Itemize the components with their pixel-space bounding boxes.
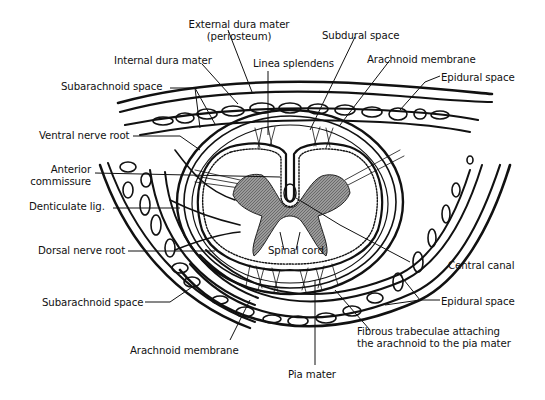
label-external-dura-mater: External dura mater (periosteum) — [178, 19, 300, 43]
external-dura-layer — [118, 82, 492, 135]
label-central-canal: Central canal — [448, 260, 514, 272]
label-epidural-space-top: Epidural space — [441, 72, 515, 84]
label-fibrous-trabeculae: Fibrous trabeculae attaching the arachno… — [357, 326, 511, 350]
label-ventral-nerve-root: Ventral nerve root — [39, 130, 129, 142]
label-spinal-cord: Spinal cord — [268, 245, 324, 257]
label-denticulate-lig: Denticulate lig. — [29, 201, 105, 213]
label-subdural-space: Subdural space — [322, 30, 399, 42]
label-epidural-space-bottom: Epidural space — [441, 296, 515, 308]
label-linea-splendens: Linea splendens — [253, 58, 334, 70]
label-arachnoid-membrane-top: Arachnoid membrane — [367, 54, 476, 66]
spinal-cord-diagram: External dura mater (periosteum) Subdura… — [0, 0, 545, 400]
label-anterior-commissure: Anterior commissure — [29, 164, 91, 188]
label-dorsal-nerve-root: Dorsal nerve root — [38, 245, 125, 257]
label-subarachnoid-space-bottom: Subarachnoid space — [42, 297, 143, 309]
label-subarachnoid-space-top: Subarachnoid space — [61, 81, 162, 93]
label-arachnoid-membrane-bottom: Arachnoid membrane — [130, 345, 239, 357]
label-pia-mater: Pia mater — [288, 369, 336, 381]
label-internal-dura-mater: Internal dura mater — [114, 55, 212, 67]
gray-matter — [233, 174, 350, 256]
